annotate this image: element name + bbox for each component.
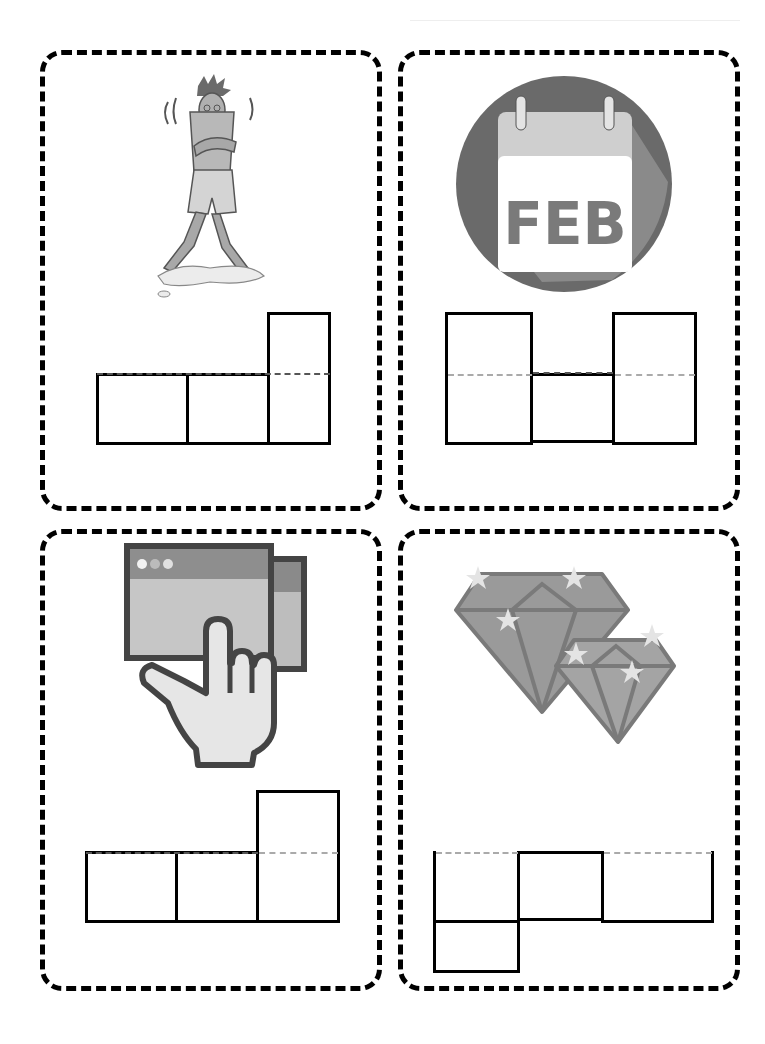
letter-box-wide-short[interactable]	[601, 851, 714, 923]
letter-box-short[interactable]	[186, 373, 270, 445]
letter-box-short[interactable]	[530, 373, 615, 443]
svg-text:FEB: FEB	[503, 190, 626, 258]
letter-box-tall[interactable]	[256, 790, 340, 923]
page-header-line	[410, 12, 740, 21]
topline-guide	[436, 852, 518, 854]
gems-icon	[452, 562, 678, 744]
midline-guide	[533, 372, 613, 374]
letter-box-tall[interactable]	[445, 312, 533, 445]
topline-guide	[604, 852, 712, 854]
letter-box-short[interactable]	[175, 851, 259, 923]
hand-touching-screen-icon	[124, 543, 308, 769]
letter-box-short[interactable]	[517, 851, 604, 921]
letter-box-tall[interactable]	[267, 312, 331, 445]
calendar-feb-icon: FEB	[452, 72, 676, 296]
letter-box-short[interactable]	[85, 851, 178, 923]
midline-guide	[97, 373, 330, 375]
shivering-person-icon	[150, 72, 270, 302]
midline-guide	[615, 374, 695, 376]
letter-box-short[interactable]	[96, 373, 189, 445]
letter-box-descender[interactable]	[433, 920, 520, 973]
letter-box-short[interactable]	[433, 851, 520, 923]
midline-guide	[259, 852, 338, 854]
letter-box-tall[interactable]	[612, 312, 697, 445]
midline-guide	[86, 852, 258, 854]
midline-guide	[448, 374, 532, 376]
